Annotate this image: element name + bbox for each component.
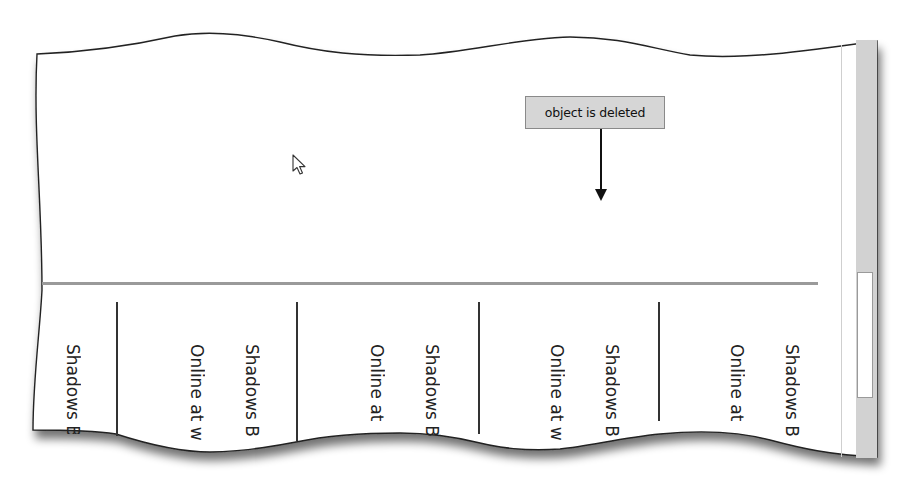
mouse-pointer-arrow-icon bbox=[291, 154, 311, 178]
column-label: Shadows B bbox=[783, 344, 800, 444]
callout-arrow-line bbox=[600, 129, 602, 191]
arrow-down-icon bbox=[595, 189, 607, 201]
column-divider bbox=[116, 302, 118, 436]
torn-paper-outline bbox=[0, 0, 902, 494]
document-view-fragment: object is deleted Shadows B Online at w … bbox=[0, 0, 902, 494]
column-label: Online at bbox=[368, 344, 385, 432]
deleted-object-callout: object is deleted bbox=[525, 96, 665, 129]
vertical-scrollbar-thumb[interactable] bbox=[857, 272, 873, 398]
column-divider bbox=[478, 302, 480, 434]
content-right-edge bbox=[841, 45, 842, 457]
column-label: Shadows B bbox=[243, 344, 260, 452]
column-label: Shadows B bbox=[423, 344, 440, 436]
callout-label: object is deleted bbox=[545, 105, 645, 120]
column-label: Shadows B bbox=[64, 344, 81, 434]
column-divider bbox=[658, 302, 660, 421]
column-label: Online at w bbox=[188, 344, 205, 452]
column-label: Online at w bbox=[548, 344, 565, 452]
column-divider bbox=[296, 302, 298, 441]
column-label: Shadows B bbox=[603, 344, 620, 447]
column-label: Online at bbox=[728, 344, 745, 430]
report-header-rule bbox=[42, 282, 818, 285]
